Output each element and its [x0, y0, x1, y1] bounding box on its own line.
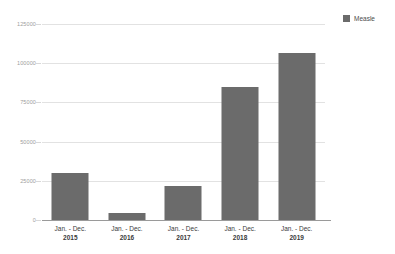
bar-2019[interactable] [278, 53, 315, 220]
y-tick-mark [36, 102, 41, 103]
bar-chart: 125000 100000 75000 50000 25000 0 [0, 0, 395, 254]
x-axis-labels: Jan. - Dec. 2015 Jan. - Dec. 2016 Jan. -… [42, 224, 325, 250]
x-label-period: Jan. - Dec. [224, 224, 255, 233]
y-tick-label: 125000 [17, 21, 36, 27]
x-axis-line [42, 220, 331, 221]
x-label-year: 2017 [168, 233, 199, 242]
x-label-year: 2018 [224, 233, 255, 242]
x-tick-label-2019: Jan. - Dec. 2019 [281, 224, 312, 242]
bar-slot [212, 24, 269, 220]
bar-2016[interactable] [108, 213, 145, 220]
y-tick-mark [36, 63, 41, 64]
x-label-period: Jan. - Dec. [55, 224, 86, 233]
legend-swatch-measle [343, 15, 350, 22]
x-label-year: 2015 [55, 233, 86, 242]
x-label-year: 2016 [111, 233, 142, 242]
x-label-year: 2019 [281, 233, 312, 242]
y-tick-mark [36, 220, 41, 221]
y-tick-label: 50000 [20, 139, 36, 145]
y-tick-label: 100000 [17, 60, 36, 66]
bar-series-measle [42, 24, 325, 220]
bar-slot [99, 24, 156, 220]
y-tick-mark [36, 24, 41, 25]
bar-slot [42, 24, 99, 220]
chart-legend: Measle [343, 15, 375, 22]
y-axis-labels: 125000 100000 75000 50000 25000 0 [0, 0, 36, 254]
x-tick-label-2016: Jan. - Dec. 2016 [111, 224, 142, 242]
y-tick-label: 25000 [20, 178, 36, 184]
bar-slot [268, 24, 325, 220]
x-label-period: Jan. - Dec. [281, 224, 312, 233]
legend-label-measle[interactable]: Measle [354, 15, 375, 22]
bar-slot [155, 24, 212, 220]
y-tick-mark [36, 181, 41, 182]
y-tick-mark [36, 142, 41, 143]
x-tick-label-2018: Jan. - Dec. 2018 [224, 224, 255, 242]
x-label-period: Jan. - Dec. [168, 224, 199, 233]
bar-2015[interactable] [52, 173, 89, 220]
x-tick-label-2017: Jan. - Dec. 2017 [168, 224, 199, 242]
x-label-period: Jan. - Dec. [111, 224, 142, 233]
x-tick-label-2015: Jan. - Dec. 2015 [55, 224, 86, 242]
bar-2018[interactable] [222, 87, 259, 220]
y-tick-label: 75000 [20, 99, 36, 105]
bar-2017[interactable] [165, 186, 202, 221]
